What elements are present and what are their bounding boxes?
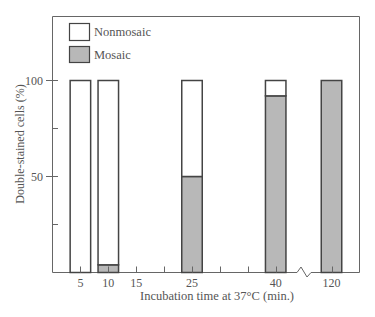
bar-5min [70, 81, 91, 273]
bar-segment-mosaic [182, 177, 203, 273]
x-axis-label: Incubation time at 37°C (min.) [140, 289, 294, 303]
bar-segment-mosaic [321, 81, 342, 273]
bar-10min [98, 81, 119, 273]
x-tick-label-5: 5 [77, 276, 83, 290]
bar-segment-mosaic [265, 96, 286, 273]
legend: Nonmosaic Mosaic [70, 24, 152, 63]
bar-40min [265, 81, 286, 273]
y-tick-label-50: 50 [31, 170, 43, 184]
bar-segment-nonmosaic [98, 81, 119, 265]
legend-label-mosaic: Mosaic [94, 48, 131, 62]
bar-120min [321, 81, 342, 273]
bar-segment-nonmosaic [182, 81, 203, 177]
chart: 100 50 Double-stained cells (%) 51015254… [0, 0, 375, 317]
bar-segment-nonmosaic [265, 81, 286, 96]
y-tick-label-100: 100 [25, 74, 43, 88]
x-tick-label-15: 15 [130, 276, 142, 290]
y-axis-label: Double-stained cells (%) [13, 84, 27, 203]
x-tick-label-10: 10 [102, 276, 114, 290]
legend-swatch-mosaic [70, 47, 90, 63]
bar-segment-nonmosaic [70, 81, 91, 273]
x-tick-labels: 510152540120 [77, 276, 340, 290]
x-tick-label-40: 40 [270, 276, 282, 290]
x-tick-label-25: 25 [186, 276, 198, 290]
legend-swatch-nonmosaic [70, 24, 90, 41]
bar-25min [182, 81, 203, 273]
x-tick-label-120: 120 [323, 276, 341, 290]
bars [70, 81, 342, 273]
legend-label-nonmosaic: Nonmosaic [94, 25, 151, 39]
